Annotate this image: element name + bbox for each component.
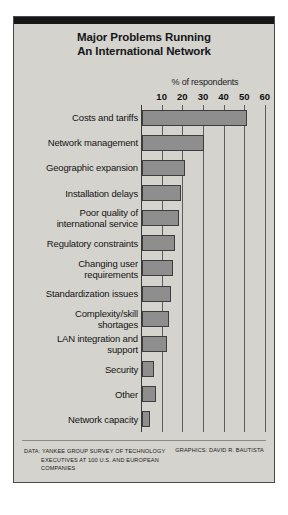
footer-divider xyxy=(22,440,266,441)
category-label-line: requirements xyxy=(20,269,138,280)
category-label: Network capacity xyxy=(20,414,138,425)
bar-row xyxy=(141,382,269,407)
x-tick-label-30: 30 xyxy=(198,91,209,102)
category-label: Complexity/skillshortages xyxy=(20,308,138,330)
category-label: Regulatory constraints xyxy=(20,238,138,249)
bar xyxy=(142,361,154,377)
category-label: Security xyxy=(20,364,138,375)
category-label: Poor quality ofinternational service xyxy=(20,207,138,229)
category-label-line: Standardization issues xyxy=(20,288,138,299)
category-label: Network management xyxy=(20,137,138,148)
category-label: Geographic expansion xyxy=(20,162,138,173)
bar-row xyxy=(141,206,269,231)
graphics-credit: GRAPHICS: DAVID R. BAUTISTA xyxy=(175,447,264,453)
bar-row xyxy=(141,130,269,155)
chart-title: Major Problems Running An International … xyxy=(14,30,274,58)
bar-row xyxy=(141,407,269,432)
category-label-line: LAN integration and xyxy=(20,333,138,344)
category-label-line: support xyxy=(20,344,138,355)
bar-row xyxy=(141,357,269,382)
x-tick-label-50: 50 xyxy=(239,91,250,102)
data-credit-line-2: EXECUTIVES AT 100 U.S. AND EUROPEAN xyxy=(24,456,174,465)
bar xyxy=(142,411,150,427)
bar xyxy=(142,311,169,327)
chart-title-line-1: Major Problems Running xyxy=(14,30,274,44)
category-label-line: Network capacity xyxy=(20,414,138,425)
bar xyxy=(142,185,181,201)
category-label-line: Security xyxy=(20,364,138,375)
x-axis-tick-row: 102030405060 xyxy=(141,91,269,103)
bar xyxy=(142,386,156,402)
bar xyxy=(142,286,171,302)
category-label-line: Regulatory constraints xyxy=(20,238,138,249)
panel-header-strip xyxy=(14,17,274,24)
data-credit-line-3: COMPANIES xyxy=(24,464,174,473)
category-label-list: Costs and tariffsNetwork managementGeogr… xyxy=(20,105,138,432)
x-tick-label-10: 10 xyxy=(156,91,167,102)
category-label: LAN integration andsupport xyxy=(20,333,138,355)
bar xyxy=(142,260,173,276)
category-label-line: Network management xyxy=(20,137,138,148)
bar xyxy=(142,110,247,126)
category-label-line: Costs and tariffs xyxy=(20,112,138,123)
bar-row xyxy=(141,180,269,205)
plot-area: 102030405060 xyxy=(141,105,269,432)
bar-row xyxy=(141,231,269,256)
category-label-line: shortages xyxy=(20,319,138,330)
category-label-line: Geographic expansion xyxy=(20,162,138,173)
bar-row xyxy=(141,256,269,281)
category-label-line: Changing user xyxy=(20,258,138,269)
category-label: Changing userrequirements xyxy=(20,258,138,280)
bar xyxy=(142,336,167,352)
bar-row xyxy=(141,105,269,130)
x-tick-label-60: 60 xyxy=(260,91,271,102)
category-label: Costs and tariffs xyxy=(20,112,138,123)
category-label-line: Other xyxy=(20,389,138,400)
data-source-credit: DATA: YANKEE GROUP SURVEY OF TECHNOLOGY … xyxy=(24,447,174,473)
chart-title-line-2: An International Network xyxy=(14,44,274,58)
bar xyxy=(142,160,185,176)
category-label: Standardization issues xyxy=(20,288,138,299)
bar-row xyxy=(141,331,269,356)
data-credit-line-1: DATA: YANKEE GROUP SURVEY OF TECHNOLOGY xyxy=(24,447,174,456)
category-label-line: international service xyxy=(20,218,138,229)
bar xyxy=(142,210,179,226)
category-label-line: Complexity/skill xyxy=(20,308,138,319)
bar-row xyxy=(141,155,269,180)
x-axis-label: % of respondents xyxy=(141,77,269,87)
chart-footer: DATA: YANKEE GROUP SURVEY OF TECHNOLOGY … xyxy=(14,447,274,483)
bar-row xyxy=(141,306,269,331)
category-label: Other xyxy=(20,389,138,400)
chart-panel: Major Problems Running An International … xyxy=(13,16,275,483)
category-label-line: Poor quality of xyxy=(20,207,138,218)
category-label-line: Installation delays xyxy=(20,188,138,199)
category-label: Installation delays xyxy=(20,188,138,199)
x-tick-label-20: 20 xyxy=(177,91,188,102)
x-tick-label-40: 40 xyxy=(218,91,229,102)
bar xyxy=(142,235,175,251)
bar-row xyxy=(141,281,269,306)
bar xyxy=(142,135,204,151)
